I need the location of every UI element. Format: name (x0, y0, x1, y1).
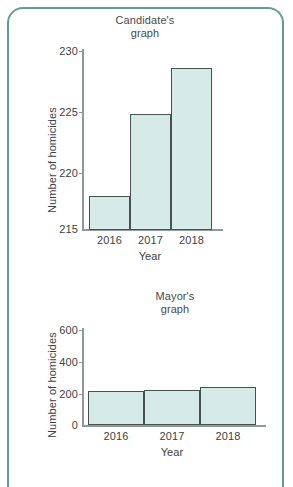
x-tick-label: 2017 (144, 430, 200, 442)
chart-title: Candidate's graph (90, 14, 200, 40)
y-tick-label: 0 (50, 419, 78, 431)
bar-2017 (130, 114, 171, 230)
x-tick-label: 2018 (171, 234, 212, 246)
x-tick-label: 2016 (88, 430, 144, 442)
chart-mayors-graph: Mayor's graph Number of homicides 600 40… (0, 276, 293, 466)
y-tick-label: 200 (50, 388, 78, 400)
y-tick-label: 220 (52, 167, 78, 179)
x-axis-label: Year (144, 446, 200, 458)
x-tick-label: 2016 (89, 234, 130, 246)
bar-2017 (144, 390, 200, 425)
y-tick-label: 230 (52, 45, 78, 57)
y-tick-label: 400 (50, 356, 78, 368)
y-tick-label: 225 (52, 106, 78, 118)
bar-2018 (171, 68, 212, 230)
chart-candidates-graph: Candidate's graph Number of homicides 23… (0, 0, 293, 276)
y-tick-label: 600 (50, 324, 78, 336)
y-axis-line (82, 328, 84, 427)
y-axis-label: Number of homicides (46, 107, 58, 213)
bar-2016 (88, 391, 144, 425)
x-axis-label: Year (120, 250, 180, 262)
bar-2016 (89, 196, 130, 230)
x-axis-line (82, 425, 266, 427)
y-axis-line (82, 49, 84, 231)
bar-2018 (200, 387, 256, 425)
chart-title: Mayor's graph (125, 290, 225, 316)
y-tick-label: 215 (52, 223, 78, 235)
x-tick-label: 2018 (200, 430, 256, 442)
x-tick-label: 2017 (130, 234, 171, 246)
